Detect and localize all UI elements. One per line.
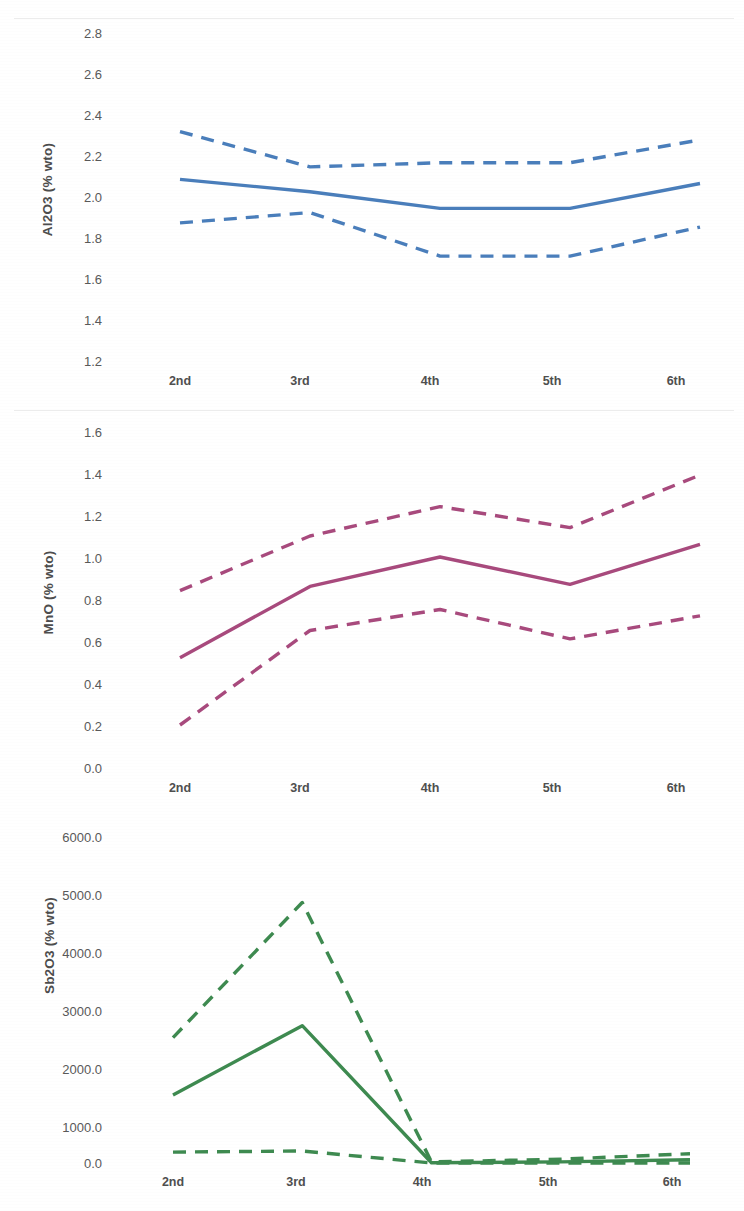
- y-tick-label: 2.2: [84, 150, 102, 163]
- series-line-upper-bound: [173, 902, 690, 1161]
- panel-divider: [14, 18, 734, 19]
- plot-area-sb2o3: [118, 836, 718, 1163]
- y-tick-label: 0.2: [84, 720, 102, 733]
- x-tick-label: 5th: [508, 1176, 588, 1189]
- y-tick-label: 2.6: [84, 68, 102, 81]
- x-tick-label: 4th: [390, 782, 470, 795]
- series-line-lower-bound: [180, 610, 700, 726]
- y-tick-label: 2000.0: [62, 1063, 102, 1076]
- x-tick-label: 6th: [636, 375, 716, 388]
- x-tick-label: 6th: [632, 1176, 712, 1189]
- y-tick-label: 1.8: [84, 232, 102, 245]
- x-tick-label: 5th: [512, 782, 592, 795]
- y-tick-label: 1000.0: [62, 1121, 102, 1134]
- y-tick-label: 1.4: [84, 314, 102, 327]
- y-axis-title-sb2o3: Sb2O3 (% wto): [42, 853, 57, 1038]
- y-tick-label: 2.8: [84, 27, 102, 40]
- y-axis-title-al2o3: Al2O3 (% wto): [40, 105, 55, 275]
- series-line-upper-bound: [180, 132, 700, 167]
- y-tick-label: 2.0: [84, 191, 102, 204]
- y-tick-label: 3000.0: [62, 1005, 102, 1018]
- series-line-mean: [180, 544, 700, 657]
- chart-panel-al2o3: Al2O3 (% wto) 2.8 2.6 2.4 2.2 2.0 1.8 1.…: [0, 0, 744, 400]
- y-axis-title-mno: MnO (% wto): [41, 513, 56, 673]
- x-tick-label: 2nd: [140, 782, 220, 795]
- y-tick-label: 1.0: [84, 552, 102, 565]
- chart-panel-mno: MnO (% wto) 1.6 1.4 1.2 1.0 0.8 0.6 0.4 …: [0, 400, 744, 810]
- series-line-mean: [180, 179, 700, 208]
- y-tick-label: 1.2: [84, 355, 102, 368]
- x-tick-label: 5th: [512, 375, 592, 388]
- y-tick-label: 0.0: [84, 762, 102, 775]
- x-tick-label: 3rd: [260, 782, 340, 795]
- line-chart-svg-sb2o3: [118, 836, 718, 1163]
- x-tick-label: 6th: [636, 782, 716, 795]
- y-tick-label: 1.6: [84, 273, 102, 286]
- x-tick-label: 2nd: [133, 1176, 213, 1189]
- series-line-upper-bound: [180, 475, 700, 590]
- chart-panel-sb2o3: Sb2O3 (% wto) 6000.0 5000.0 4000.0 3000.…: [0, 810, 744, 1211]
- y-tick-label: 4000.0: [62, 947, 102, 960]
- y-tick-label: 1.4: [84, 468, 102, 481]
- line-chart-svg-mno: [118, 431, 718, 767]
- y-tick-label: 0.0: [84, 1157, 102, 1170]
- figure-page: Al2O3 (% wto) 2.8 2.6 2.4 2.2 2.0 1.8 1.…: [0, 0, 744, 1211]
- y-tick-label: 1.6: [84, 426, 102, 439]
- series-line-mean: [173, 1026, 690, 1163]
- x-tick-label: 4th: [390, 375, 470, 388]
- x-tick-label: 2nd: [140, 375, 220, 388]
- y-tick-label: 0.8: [84, 594, 102, 607]
- y-tick-label: 2.4: [84, 109, 102, 122]
- plot-area-mno: [118, 431, 718, 767]
- y-tick-label: 1.2: [84, 510, 102, 523]
- y-tick-label: 0.6: [84, 636, 102, 649]
- y-tick-label: 0.4: [84, 678, 102, 691]
- panel-divider: [14, 410, 734, 411]
- series-line-lower-bound: [180, 213, 700, 257]
- plot-area-al2o3: [118, 32, 718, 364]
- x-tick-label: 3rd: [260, 375, 340, 388]
- line-chart-svg-al2o3: [118, 32, 718, 364]
- x-tick-label: 3rd: [256, 1176, 336, 1189]
- x-tick-label: 4th: [382, 1176, 462, 1189]
- y-tick-label: 5000.0: [62, 889, 102, 902]
- y-tick-label: 6000.0: [62, 831, 102, 844]
